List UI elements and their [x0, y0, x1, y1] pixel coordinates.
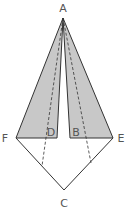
label-b: B	[72, 126, 80, 139]
kite-fold-diagram: A F E D B C	[0, 0, 127, 213]
label-e: E	[118, 132, 125, 145]
segment-fc	[16, 138, 64, 190]
shaded-triangle-abe	[63, 18, 113, 138]
shaded-triangle-fad	[16, 18, 63, 138]
label-d: D	[47, 126, 55, 139]
segment-ce	[64, 138, 113, 190]
label-c: C	[60, 197, 68, 210]
label-f: F	[2, 132, 8, 145]
label-a: A	[59, 2, 67, 15]
